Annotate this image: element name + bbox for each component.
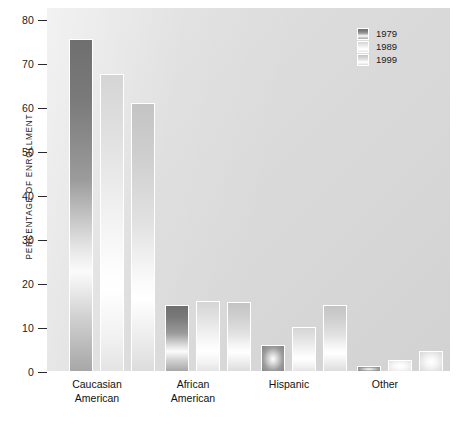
y-tick-70: 70 <box>0 57 47 71</box>
x-label-line1: Caucasian <box>72 378 122 390</box>
y-tick-40: 40 <box>0 189 47 203</box>
x-label-line1: Other <box>372 378 398 390</box>
y-axis: 80 70 60 50 40 30 20 10 0 PERCENTAGE OF … <box>0 0 47 426</box>
bar-group-other <box>357 20 443 372</box>
bar-other-1979 <box>357 366 381 372</box>
x-label-line2: American <box>47 392 147 406</box>
bars-area <box>47 20 450 372</box>
bar-other-1999 <box>419 351 443 372</box>
bar-hispanic-1979 <box>261 345 285 372</box>
tick-dash-icon <box>38 284 47 285</box>
x-label-caucasian-american: Caucasian American <box>47 378 147 405</box>
x-axis-labels: Caucasian American African American Hisp… <box>47 378 450 418</box>
bar-group-african-american <box>165 20 251 372</box>
bar-african-american-1979 <box>165 305 189 372</box>
y-tick-20: 20 <box>0 277 47 291</box>
tick-dash-icon <box>38 152 47 153</box>
bar-hispanic-1999 <box>323 305 347 372</box>
bar-caucasian-american-1989 <box>100 74 124 372</box>
chart-figure: 80 70 60 50 40 30 20 10 0 PERCENTAGE OF … <box>0 0 458 426</box>
tick-dash-icon <box>38 64 47 65</box>
x-label-line1: African <box>177 378 210 390</box>
x-label-line1: Hispanic <box>269 378 309 390</box>
y-tick-80: 80 <box>0 13 47 27</box>
y-tick-60: 60 <box>0 101 47 115</box>
y-tick-10: 10 <box>0 321 47 335</box>
bar-caucasian-american-1999 <box>131 103 155 372</box>
bar-other-1989 <box>388 360 412 372</box>
x-label-other: Other <box>335 378 435 392</box>
bar-group-caucasian-american <box>69 20 155 372</box>
tick-dash-icon <box>38 108 47 109</box>
x-label-line2: American <box>143 392 243 406</box>
tick-dash-icon <box>38 372 47 373</box>
x-label-african-american: African American <box>143 378 243 405</box>
tick-dash-icon <box>38 328 47 329</box>
bar-group-hispanic <box>261 20 347 372</box>
tick-dash-icon <box>38 20 47 21</box>
tick-dash-icon <box>38 240 47 241</box>
y-tick-30: 30 <box>0 233 47 247</box>
bar-african-american-1999 <box>227 302 251 372</box>
y-axis-label: PERCENTAGE OF ENROLLMENT <box>25 140 34 260</box>
x-label-hispanic: Hispanic <box>239 378 339 392</box>
bar-caucasian-american-1979 <box>69 39 93 372</box>
y-tick-50: 50 <box>0 145 47 159</box>
bar-african-american-1989 <box>196 301 220 372</box>
bar-hispanic-1989 <box>292 327 316 372</box>
tick-dash-icon <box>38 196 47 197</box>
y-tick-0: 0 <box>0 365 47 379</box>
